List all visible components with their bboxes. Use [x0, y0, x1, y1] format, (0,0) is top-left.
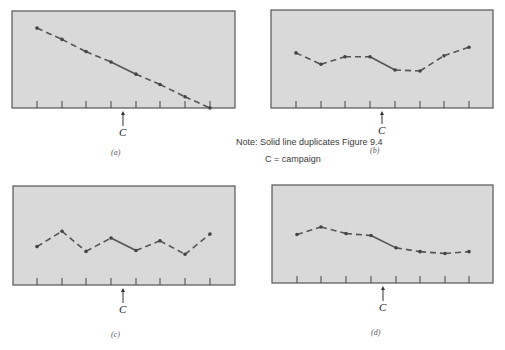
data-point-a-6	[158, 83, 162, 87]
data-point-d-2	[319, 225, 323, 229]
data-point-a-5	[134, 72, 138, 76]
data-point-c-1	[35, 245, 39, 249]
data-point-d-3	[344, 232, 348, 236]
campaign-arrow-icon-b	[380, 111, 384, 115]
plot-area-d	[272, 185, 493, 283]
caption-d: (d)	[371, 328, 380, 337]
data-point-b-5	[393, 68, 397, 72]
data-point-b-1	[294, 51, 298, 55]
data-point-d-4	[369, 234, 373, 238]
plot-area-a	[12, 11, 235, 108]
chart-panel-b	[271, 10, 493, 124]
data-point-c-4	[109, 236, 113, 240]
chart-panel-c	[13, 186, 235, 303]
campaign-label-a: C	[119, 126, 126, 138]
plot-area-b	[271, 10, 493, 108]
campaign-arrow-icon-d	[381, 286, 385, 290]
data-point-a-1	[35, 26, 39, 30]
data-point-b-2	[319, 63, 323, 67]
campaign-label-c: C	[119, 303, 126, 315]
plot-area-c	[13, 186, 235, 285]
data-point-c-3	[84, 250, 88, 254]
data-point-d-1	[295, 233, 299, 237]
data-point-d-8	[467, 250, 471, 254]
data-point-c-6	[158, 239, 162, 243]
data-point-b-6	[418, 69, 422, 73]
caption-b: (b)	[370, 146, 379, 155]
data-point-c-8	[208, 232, 212, 236]
note-campaign-legend: C = campaign	[265, 154, 321, 164]
data-point-b-8	[467, 45, 471, 49]
data-point-b-7	[442, 54, 446, 58]
note-solid-line: Note: Solid line duplicates Figure 9.4	[236, 137, 383, 147]
caption-c: (c)	[111, 330, 120, 339]
campaign-label-d: C	[379, 301, 386, 313]
data-point-a-4	[109, 60, 113, 64]
data-point-d-6	[418, 250, 422, 254]
data-point-d-7	[443, 252, 447, 256]
campaign-label-b: C	[378, 124, 385, 136]
data-point-c-7	[183, 252, 187, 256]
data-point-a-8	[208, 106, 212, 110]
data-point-d-5	[394, 246, 398, 250]
dashed-segment-b-5	[395, 70, 420, 71]
chart-panel-a	[12, 11, 235, 126]
data-point-c-2	[60, 229, 64, 233]
chart-panel-d	[272, 185, 493, 301]
data-point-a-2	[60, 38, 64, 42]
data-point-b-4	[368, 55, 372, 59]
caption-a: (a)	[111, 148, 120, 157]
campaign-arrow-icon-c	[121, 288, 125, 292]
data-point-c-5	[134, 249, 138, 253]
figure-canvas	[0, 0, 505, 350]
data-point-a-3	[84, 50, 88, 54]
data-point-a-7	[183, 95, 187, 99]
campaign-arrow-icon-a	[121, 111, 125, 115]
data-point-b-3	[343, 55, 347, 59]
